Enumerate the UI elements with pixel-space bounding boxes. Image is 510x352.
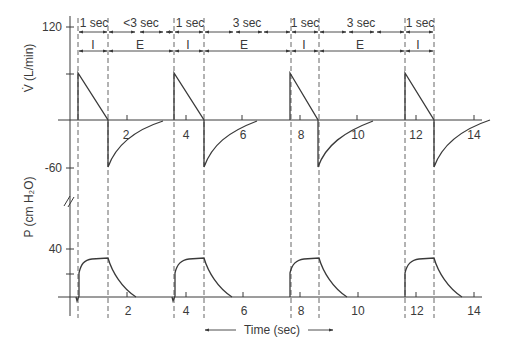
pressure-tick-40: 40 — [49, 242, 63, 256]
duration-label-3: 1 sec — [176, 16, 205, 30]
flow-time-6: 6 — [240, 128, 247, 142]
duration-label-5: 1 sec — [291, 16, 320, 30]
pressure-axis-label: P (cm H₂O) — [22, 176, 36, 237]
pressure-time-12: 12 — [410, 304, 424, 318]
pressure-time-14: 14 — [467, 304, 481, 318]
phase-label-I4: I — [416, 38, 419, 52]
pressure-time-2: 2 — [125, 304, 132, 318]
ventilator-waveform-diagram: 120 -60 V̇ (L/min) 40 P (cm H₂O) 2 4 6 8… — [0, 0, 510, 352]
phase-labels: I E I E I E I — [91, 38, 419, 52]
flow-tick-120: 120 — [42, 20, 62, 34]
phase-label-I1: I — [91, 38, 94, 52]
pressure-time-4: 4 — [183, 304, 190, 318]
duration-label-1: 1 sec — [80, 16, 109, 30]
time-axis-label: Time (sec) — [244, 323, 300, 337]
axis-break-icon — [64, 196, 74, 207]
phase-label-I3: I — [302, 38, 305, 52]
flow-time-14: 14 — [467, 128, 481, 142]
duration-label-4: 3 sec — [233, 16, 262, 30]
pressure-time-6: 6 — [241, 304, 248, 318]
pressure-time-ticks — [127, 292, 474, 297]
phase-label-E1: E — [136, 38, 144, 52]
flow-time-4: 4 — [183, 128, 190, 142]
duration-label-7: 1 sec — [406, 16, 435, 30]
pressure-time-10: 10 — [351, 304, 365, 318]
phase-label-I2: I — [186, 38, 189, 52]
phase-boundary-dashes — [78, 18, 434, 318]
flow-tick-neg60: -60 — [45, 161, 63, 175]
flow-time-tick-labels: 2 4 6 8 10 12 14 — [123, 128, 481, 142]
duration-labels: 1 sec <3 sec 1 sec 3 sec 1 sec 3 sec 1 s… — [80, 16, 435, 30]
pressure-waveform — [76, 258, 462, 301]
flow-time-12: 12 — [409, 128, 423, 142]
flow-axis-label: V̇ (L/min) — [22, 44, 36, 93]
duration-label-6: 3 sec — [347, 16, 376, 30]
pressure-time-8: 8 — [298, 304, 305, 318]
flow-time-8: 8 — [298, 128, 305, 142]
phase-label-E3: E — [356, 38, 364, 52]
phase-label-E2: E — [240, 38, 248, 52]
duration-label-2: <3 sec — [123, 16, 159, 30]
pressure-time-tick-labels: 2 4 6 8 10 12 14 — [125, 304, 481, 318]
flow-time-ticks — [127, 115, 474, 120]
